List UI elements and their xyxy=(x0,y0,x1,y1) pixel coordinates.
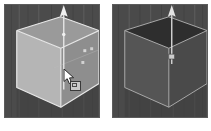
figure-root: 3D viewport comparison: cube with Z-axis… xyxy=(0,0,211,131)
viewport-right-canvas[interactable] xyxy=(113,5,207,117)
vertex-handle-b[interactable] xyxy=(90,47,93,50)
caption-band xyxy=(0,119,211,131)
vertex-handle-a[interactable] xyxy=(83,49,86,52)
figure-title: 3D viewport comparison: cube with Z-axis… xyxy=(0,0,1,1)
viewport-left-canvas[interactable] xyxy=(5,5,99,117)
viewport-right[interactable] xyxy=(112,4,208,118)
viewport-left[interactable] xyxy=(4,4,100,118)
translate-z-gizmo-handle-dot[interactable] xyxy=(62,33,66,37)
translate-z-gizmo-handle-box[interactable] xyxy=(169,54,175,59)
panel-right-state: Cube deselected / darkened result xyxy=(0,0,1,1)
vertex-handle-c[interactable] xyxy=(81,61,84,64)
panel-left-state: Cube selected / being dragged xyxy=(0,0,1,1)
